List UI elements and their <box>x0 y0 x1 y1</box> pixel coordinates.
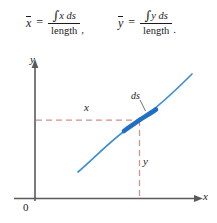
ybar-trailing-punctuation: . <box>172 24 176 36</box>
formula-band: x = ∫x ds length , y = ∫y ds length . <box>0 0 217 46</box>
xbar-trailing-punctuation: , <box>80 24 84 36</box>
plot-area: y x 0 x y ds <box>0 46 217 223</box>
ybar-denominator: length <box>140 24 172 36</box>
xbar-numerator: ∫x ds <box>50 8 79 23</box>
ybar-guide-label: y <box>143 156 148 167</box>
xbar-fraction: ∫x ds length <box>48 8 80 36</box>
ybar-variable: y <box>118 15 123 29</box>
xbar-formula: x = ∫x ds length , <box>26 8 84 36</box>
origin-label: 0 <box>23 202 29 213</box>
xbar-guide-label: x <box>84 102 89 113</box>
ybar-numerator: ∫y ds <box>142 8 171 23</box>
xbar-equals-sign: = <box>36 16 43 28</box>
xbar-numerator-body: x ds <box>59 10 76 21</box>
y-axis-label: y <box>30 54 35 65</box>
xbar-denominator: length <box>48 24 80 36</box>
xbar-variable: x <box>26 15 31 29</box>
plot-canvas <box>0 46 217 223</box>
integral-icon: ∫ <box>53 8 60 23</box>
ybar-formula: y = ∫y ds length . <box>118 8 176 36</box>
x-axis-label: x <box>203 191 208 202</box>
ybar-numerator-body: y ds <box>151 10 168 21</box>
ybar-equals-sign: = <box>128 16 135 28</box>
integral-icon: ∫ <box>145 8 152 23</box>
ds-leader-line <box>140 100 146 111</box>
ybar-fraction: ∫y ds length <box>140 8 172 36</box>
ds-label: ds <box>131 91 140 101</box>
centroid-of-curve-figure: x = ∫x ds length , y = ∫y ds length . <box>0 0 217 223</box>
x-axis-arrowhead-icon <box>194 195 203 202</box>
